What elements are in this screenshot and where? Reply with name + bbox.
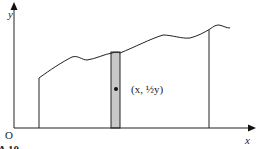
region-diagram: y x O (x, ½y) A 10 bbox=[0, 0, 257, 149]
caption-fragment: A 10 bbox=[0, 143, 20, 149]
origin-label: O bbox=[5, 129, 13, 141]
curve bbox=[39, 25, 230, 78]
x-axis-arrow-icon bbox=[248, 125, 256, 132]
point-label: (x, ½y) bbox=[131, 83, 163, 96]
x-axis-label: x bbox=[244, 134, 250, 146]
y-axis-label: y bbox=[7, 8, 13, 20]
centroid-point bbox=[114, 87, 118, 91]
